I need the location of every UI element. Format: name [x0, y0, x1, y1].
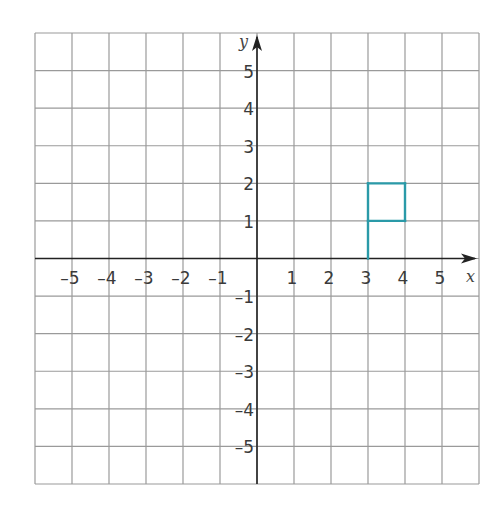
y-tick-label: –4 [235, 400, 254, 420]
y-tick-label: 2 [243, 174, 254, 194]
x-tick-label: 5 [435, 268, 446, 288]
x-tick-label: –4 [97, 268, 116, 288]
y-tick-label: –1 [235, 287, 254, 307]
x-tick-label: –3 [134, 268, 153, 288]
flag-shape [368, 183, 405, 258]
y-axis-label: y [238, 32, 249, 51]
x-tick-label: –5 [60, 268, 79, 288]
y-tick-label: 1 [243, 212, 254, 232]
y-tick-label: 5 [243, 62, 254, 82]
x-tick-label: 3 [361, 268, 372, 288]
x-axis-label: x [466, 267, 475, 286]
y-tick-label: 4 [243, 99, 254, 119]
y-tick-label: –3 [235, 362, 254, 382]
x-tick-label: 1 [287, 268, 298, 288]
y-tick-label: 3 [243, 137, 254, 157]
x-tick-label: 4 [398, 268, 409, 288]
tick-labels: –5–4–3–2–11234554321–1–2–3–4–5xy [60, 32, 475, 457]
x-tick-label: –2 [171, 268, 190, 288]
x-tick-label: –1 [208, 268, 227, 288]
y-tick-label: –5 [235, 437, 254, 457]
x-tick-label: 2 [324, 268, 335, 288]
coordinate-plane: –5–4–3–2–11234554321–1–2–3–4–5xy [0, 0, 501, 507]
axes [35, 35, 477, 484]
y-tick-label: –2 [235, 325, 254, 345]
